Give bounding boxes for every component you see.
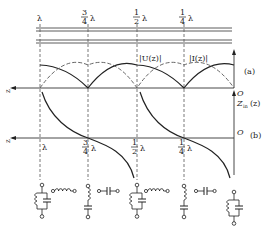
impedance-curve-2 [140, 92, 230, 178]
origin-label: O [237, 89, 244, 98]
frac-3-4-den: 4 [83, 147, 88, 156]
panel-b: z O (b) Z in (z) [4, 90, 261, 178]
frac-1-2-num: 1 [132, 138, 137, 147]
label-lambda: λ [142, 14, 147, 23]
position-labels-top: λ 3 4 λ 1 2 λ 1 4 λ [37, 8, 193, 26]
series-inductor [144, 189, 169, 193]
y-axis-arrow-icon [232, 49, 236, 55]
label-lambda: λ [188, 14, 193, 23]
label-lambda: λ [37, 14, 42, 23]
impedance-label: Z in (z) [236, 99, 260, 109]
frac-3-4-den: 4 [82, 17, 87, 26]
series-lc-circuit [180, 184, 188, 219]
label-lambda: λ [90, 14, 95, 23]
svg-text:(z): (z) [250, 99, 260, 108]
current-label: |I(z)| [189, 54, 208, 63]
label-lambda: λ [187, 144, 192, 153]
parallel-lc-circuit [227, 190, 243, 225]
voltage-label: |U(z)| [139, 54, 162, 63]
equivalent-circuits [35, 183, 243, 225]
series-lc-circuit [84, 184, 92, 219]
frac-3-4-num: 3 [82, 8, 87, 17]
position-labels-bottom: λ 3 4 λ 1 2 λ 1 4 λ [42, 138, 192, 156]
frac-1-2-den: 2 [132, 147, 137, 156]
standing-wave-diagram: λ 3 4 λ 1 2 λ 1 4 λ z O (a) [0, 0, 268, 242]
z-axis-label: z [4, 139, 12, 143]
parallel-lc-circuit [130, 183, 146, 218]
y-axis-arrow-icon [232, 90, 236, 96]
series-capacitor [194, 187, 216, 195]
origin-label: O [237, 128, 244, 137]
svg-text:Z: Z [236, 99, 243, 108]
frac-1-4-num: 1 [179, 138, 184, 147]
label-lambda: λ [140, 144, 145, 153]
series-inductor [51, 189, 76, 193]
frac-1-4-num: 1 [180, 8, 185, 17]
label-lambda: λ [91, 144, 96, 153]
position-guides [40, 24, 184, 180]
z-axis-label: z [4, 89, 12, 93]
series-capacitor [97, 187, 119, 195]
panel-tag: (b) [250, 131, 261, 140]
frac-1-2-num: 1 [134, 8, 139, 17]
frac-1-4-den: 4 [179, 147, 184, 156]
panel-tag: (a) [244, 67, 255, 76]
frac-1-2-den: 2 [134, 17, 139, 26]
label-lambda: λ [42, 143, 47, 152]
frac-3-4-num: 3 [83, 138, 88, 147]
svg-text:in: in [243, 103, 249, 109]
panel-a: z O (a) |U(z)| |I(z)| [4, 49, 255, 98]
parallel-lc-circuit [35, 183, 51, 218]
transmission-line [36, 28, 232, 43]
